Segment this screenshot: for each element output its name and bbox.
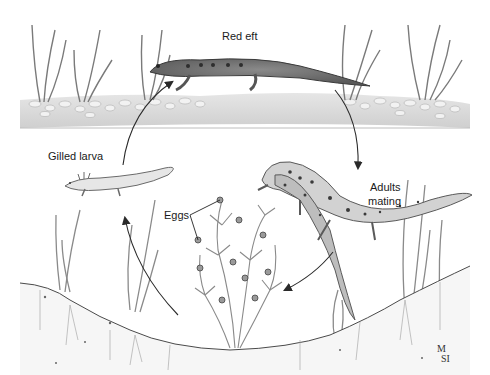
label-gilled-larva: Gilled larva (48, 150, 103, 163)
label-eggs: Eggs (164, 209, 189, 222)
illustration-canvas (0, 0, 490, 375)
pond-bottom-soil (20, 266, 470, 375)
artist-signature-si: SI (441, 353, 450, 364)
label-adults-mating-line2: mating (368, 195, 401, 208)
label-adults-mating-line1: Adults (370, 181, 401, 194)
label-red-eft: Red eft (222, 30, 257, 43)
newt-life-cycle-illustration: Red eft Gilled larva Adults mating Eggs … (0, 0, 490, 375)
red-eft (150, 59, 370, 90)
land-bank (20, 93, 470, 128)
